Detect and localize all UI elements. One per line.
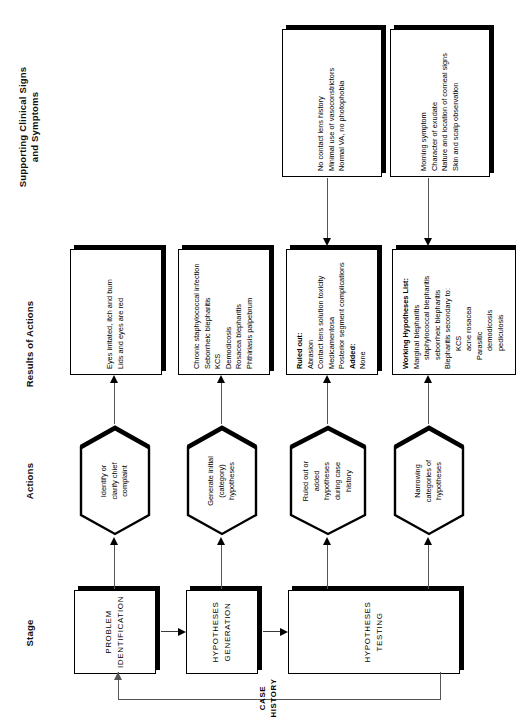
result-box-chief-complaint[interactable]: Eyes irritated, itch and burn Lids and e… bbox=[70, 249, 162, 375]
action-hexagon-label: Narrowing categories of hypotheses bbox=[413, 425, 445, 537]
hex-line: (category) bbox=[217, 435, 228, 527]
stage-box-hypotheses-testing[interactable]: HYPOTHESES TESTING bbox=[288, 590, 460, 674]
column-header-results: Results of Actions bbox=[24, 284, 36, 404]
result-line: Added: bbox=[348, 255, 359, 369]
result-box-ruled-out[interactable]: Ruled out: Abrasion Contact lens solutio… bbox=[286, 249, 378, 375]
connector-action1-to-result1 bbox=[114, 382, 115, 424]
column-header-stage: Stage bbox=[24, 588, 36, 678]
result-line: Phthiriasis palpebrum bbox=[245, 255, 256, 369]
result-line: Posterior segment complications bbox=[337, 255, 348, 369]
result-line: None bbox=[358, 255, 369, 369]
hex-line: hypotheses bbox=[323, 435, 334, 527]
action-hexagon-narrowing-categories[interactable]: Narrowing categories of hypotheses bbox=[392, 425, 466, 537]
result-line: staphylococcal blepharitis bbox=[422, 255, 433, 369]
clinical-line: Morning symptom bbox=[419, 35, 430, 171]
arrowhead-action2-to-result2 bbox=[217, 375, 225, 383]
arrowhead-stage1-to-stage2 bbox=[178, 629, 186, 637]
connector-stage2-to-action2 bbox=[221, 545, 222, 589]
result-line: Parasitic bbox=[475, 255, 486, 369]
feedback-label-line2: HISTORY bbox=[269, 668, 280, 722]
arrowhead-clinical2-to-result4 bbox=[424, 238, 432, 246]
arrowhead-stage2-to-stage3 bbox=[280, 629, 288, 637]
feedback-label-case-history: CASE HISTORY bbox=[258, 668, 279, 722]
clinical-line: Nature and location of corneal signs bbox=[440, 35, 451, 171]
clinical-box-narrowing-signs[interactable]: Morning symptom Character of exudate Nat… bbox=[390, 29, 490, 177]
arrowhead-action1-to-result1 bbox=[110, 375, 118, 383]
hex-line: hypotheses bbox=[434, 435, 445, 527]
hex-line: categories of bbox=[424, 435, 435, 527]
result-line: KCS bbox=[454, 255, 465, 369]
arrowhead-stage2-to-action2 bbox=[217, 537, 225, 545]
hex-line: clarify chief bbox=[110, 435, 121, 527]
hex-line: added bbox=[312, 435, 323, 527]
action-hexagon-label: Ruled out or added hypotheses during cas… bbox=[301, 425, 355, 537]
connector-stage3-to-action4 bbox=[428, 545, 429, 589]
action-hexagon-label: Generate initial (category) hypotheses bbox=[206, 425, 238, 537]
column-header-clinical-line2: and Symptoms bbox=[29, 52, 41, 202]
connector-action2-to-result2 bbox=[221, 382, 222, 424]
connector-action3-to-result3 bbox=[327, 382, 328, 424]
column-header-clinical: Supporting Clinical Signs and Symptoms bbox=[17, 52, 41, 202]
result-line: Demodicosis bbox=[224, 255, 235, 369]
hex-line: during case bbox=[333, 435, 344, 527]
connector-stage2-to-stage3 bbox=[263, 631, 281, 632]
action-hexagon-ruled-out-added-hypotheses[interactable]: Ruled out or added hypotheses during cas… bbox=[288, 425, 368, 537]
stage-label-line1: HYPOTHESES bbox=[210, 596, 222, 668]
column-header-clinical-line1: Supporting Clinical Signs bbox=[17, 52, 29, 202]
result-line: Working Hypotheses List: bbox=[401, 255, 412, 369]
result-box-initial-hypotheses[interactable]: Chronic staphylococcal infection Seborrh… bbox=[178, 249, 270, 375]
arrowhead-stage3-to-action3 bbox=[323, 537, 331, 545]
connector-stage3-to-action3 bbox=[327, 545, 328, 589]
clinical-box-case-history[interactable]: No contact lens history Minimal use of v… bbox=[282, 29, 382, 177]
hex-line: Generate initial bbox=[206, 435, 217, 527]
stage-label-line2: GENERATION bbox=[222, 596, 234, 668]
result-line: seborrheic blepharitis bbox=[433, 255, 444, 369]
hex-line: Identify or bbox=[99, 435, 110, 527]
hex-line: hypotheses bbox=[227, 435, 238, 527]
arrowhead-clinical1-to-result3 bbox=[323, 238, 331, 246]
action-hexagon-label: Identify or clarify chief complaint bbox=[99, 425, 131, 537]
result-line: Chronic staphylococcal infection bbox=[192, 255, 203, 369]
stage-box-hypotheses-generation[interactable]: HYPOTHESES GENERATION bbox=[186, 590, 258, 674]
hex-line: Narrowing bbox=[413, 435, 424, 527]
clinical-line: Normal VA, no photophobia bbox=[337, 35, 348, 171]
connector-stage1-to-action1 bbox=[114, 545, 115, 589]
stage-label-line2: TESTING bbox=[374, 596, 386, 668]
action-hexagon-identify-chief-complaint[interactable]: Identify or clarify chief complaint bbox=[78, 425, 152, 537]
result-line: acne rosacea bbox=[465, 255, 476, 369]
result-line: Contact lens solution toxicity bbox=[316, 255, 327, 369]
feedback-line-from-testing bbox=[440, 672, 441, 700]
result-line: Eyes irritated, itch and burn bbox=[105, 255, 116, 369]
stage-label-line1: PROBLEM bbox=[103, 596, 115, 668]
result-line: Abrasion bbox=[306, 255, 317, 369]
result-line: Ruled out: bbox=[295, 255, 306, 369]
result-line: Medicamentosa bbox=[327, 255, 338, 369]
result-line: Lids and eyes are red bbox=[116, 255, 127, 369]
result-line: demodicosis bbox=[486, 255, 497, 369]
stage-label-line2: IDENTIFICATION bbox=[115, 596, 127, 668]
result-line: KCS bbox=[213, 255, 224, 369]
connector-action4-to-result4 bbox=[428, 382, 429, 424]
column-header-actions: Actions bbox=[24, 436, 36, 526]
arrowhead-action3-to-result3 bbox=[323, 375, 331, 383]
hex-line: Ruled out or bbox=[301, 435, 312, 527]
result-line: Marginal blepharitis bbox=[412, 255, 423, 369]
clinical-line: No contact lens history bbox=[316, 35, 327, 171]
hex-line: history bbox=[344, 435, 355, 527]
connector-stage1-to-stage2 bbox=[161, 631, 179, 632]
arrowhead-stage1-to-action1 bbox=[110, 537, 118, 545]
arrowhead-action4-to-result4 bbox=[424, 375, 432, 383]
result-box-working-hypotheses[interactable]: Working Hypotheses List: Marginal blepha… bbox=[392, 249, 516, 375]
clinical-line: Skin and scalp observation bbox=[451, 35, 462, 171]
connector-clinical2-to-result4 bbox=[428, 178, 429, 238]
result-line: Seborrheic blepharitis bbox=[203, 255, 214, 369]
connector-clinical1-to-result3 bbox=[327, 178, 328, 238]
result-line: Rosacea blepharitis bbox=[235, 255, 246, 369]
result-line: pediculosis bbox=[496, 255, 507, 369]
stage-label-line1: HYPOTHESES bbox=[362, 596, 374, 668]
stage-box-problem-identification[interactable]: PROBLEM IDENTIFICATION bbox=[74, 590, 156, 674]
action-hexagon-generate-initial-hypotheses[interactable]: Generate initial (category) hypotheses bbox=[185, 425, 259, 537]
clinical-line: Minimal use of vasoconstrictors bbox=[327, 35, 338, 171]
